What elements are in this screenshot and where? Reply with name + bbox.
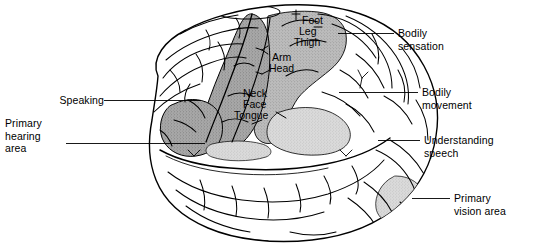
callout-understanding-speech: Understanding speech — [424, 134, 535, 159]
callout-bodily-sensation: Bodily sensation — [398, 27, 528, 52]
homunculus-label-thigh: Thigh — [294, 37, 320, 49]
homunculus-label-head: Head — [269, 63, 294, 75]
homunculus-label-tongue: Tongue — [234, 110, 268, 122]
region-primary-hearing-area — [206, 141, 271, 161]
callout-speaking: Speaking — [0, 94, 104, 107]
callout-primary-hearing-area: Primary hearing area — [5, 117, 75, 155]
callout-primary-vision-area: Primary vision area — [454, 192, 535, 217]
brain-functional-areas-diagram: Speaking Primary hearing area Bodily sen… — [0, 0, 535, 247]
callout-bodily-movement: Bodily movement — [422, 86, 534, 111]
